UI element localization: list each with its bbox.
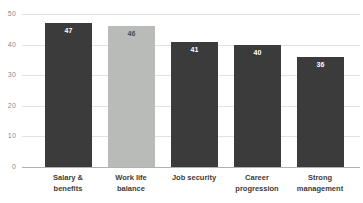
y-tick-label-40: 40: [0, 41, 16, 48]
x-label-line-1: Salary &: [32, 172, 104, 183]
bar-value-job-security: 41: [171, 46, 218, 53]
bar-value-salary-benefits: 47: [45, 27, 92, 34]
x-label-line-1: Career: [221, 172, 293, 183]
x-label-line-2: balance: [95, 183, 167, 194]
bar-value-strong-management: 36: [297, 61, 344, 68]
x-label-line-2: progression: [221, 183, 293, 194]
bar-job-security[interactable]: 41: [171, 42, 218, 167]
bar-salary-benefits[interactable]: 47: [45, 23, 92, 167]
y-tick-label-0: 0: [0, 163, 16, 170]
x-axis-labels: Salary & benefits Work life balance Job …: [22, 170, 360, 203]
bar-series: 47 46 41 40 36: [22, 14, 360, 167]
y-tick-label-50: 50: [0, 10, 16, 17]
plot-area: 50 40 30 20 10 0 47 46 41: [22, 14, 360, 167]
bar-strong-management[interactable]: 36: [297, 57, 344, 167]
y-tick-label-10: 10: [0, 132, 16, 139]
bar-work-life-balance[interactable]: 46: [108, 26, 155, 167]
x-label-strong-management: Strong management: [284, 172, 356, 194]
y-tick-label-30: 30: [0, 71, 16, 78]
bar-career-progression[interactable]: 40: [234, 45, 281, 167]
x-label-work-life-balance: Work life balance: [95, 172, 167, 194]
bar-value-career-progression: 40: [234, 49, 281, 56]
x-label-line-1: Work life: [95, 172, 167, 183]
axis-baseline: [22, 167, 360, 168]
x-label-job-security: Job security: [158, 172, 230, 183]
y-tick-label-20: 20: [0, 102, 16, 109]
x-label-line-2: benefits: [32, 183, 104, 194]
x-label-career-progression: Career progression: [221, 172, 293, 194]
bar-chart: 50 40 30 20 10 0 47 46 41: [0, 0, 363, 203]
bar-value-work-life-balance: 46: [108, 30, 155, 37]
x-label-line-1: Job security: [158, 172, 230, 183]
x-label-salary-benefits: Salary & benefits: [32, 172, 104, 194]
x-label-line-1: Strong: [284, 172, 356, 183]
x-label-line-2: management: [284, 183, 356, 194]
